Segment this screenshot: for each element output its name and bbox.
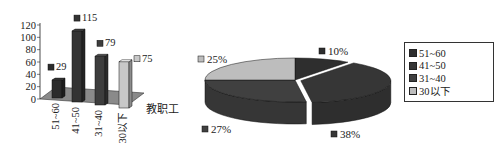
legend-label: 31~40	[419, 73, 446, 84]
x-tick-label: 51~60	[50, 103, 61, 130]
data-label-swatch	[97, 40, 103, 46]
legend-swatch	[409, 49, 417, 57]
bar-front	[72, 31, 82, 102]
bar-side	[82, 29, 85, 102]
y-tick-label: 0	[31, 94, 36, 105]
legend-item: 51~60	[409, 47, 489, 60]
x-tick-label: 41~50	[70, 107, 81, 134]
legend-item: 30以下	[409, 85, 489, 98]
data-label-swatch	[319, 48, 325, 54]
x-axis-title: 教职工	[146, 103, 179, 115]
bar	[119, 60, 132, 108]
bar-data-label: 29	[56, 61, 67, 72]
pie-legend: 51~6041~5031~4030以下	[404, 42, 494, 102]
y-tick-label: 80	[26, 44, 37, 55]
bar-side	[129, 60, 132, 108]
bar	[72, 29, 85, 102]
bar-side	[105, 54, 108, 105]
x-tick-label: 30以下	[117, 113, 128, 144]
data-label-swatch	[198, 56, 204, 62]
bar-data-label: 79	[105, 37, 116, 48]
legend-swatch	[409, 62, 417, 70]
bar-front	[52, 80, 62, 98]
data-label-swatch	[48, 64, 54, 70]
data-label-swatch	[202, 126, 208, 132]
bar	[95, 54, 108, 105]
legend-label: 30以下	[419, 83, 450, 98]
bar-data-label: 75	[142, 53, 153, 64]
legend-item: 41~50	[409, 60, 489, 73]
bar-chart: 020406080100120 2951~6011541~507931~4075…	[0, 0, 180, 157]
bar-side	[62, 78, 65, 98]
legend-swatch	[409, 87, 417, 95]
x-tick-label: 31~40	[93, 110, 104, 137]
bar-data-label: 115	[82, 12, 97, 23]
bar	[52, 78, 65, 98]
pie-data-label: 27%	[211, 123, 231, 135]
pie-data-label: 25%	[207, 53, 227, 65]
legend-label: 51~60	[419, 48, 446, 59]
legend-label: 41~50	[419, 60, 446, 71]
pie-data-label: 10%	[328, 45, 348, 57]
legend-swatch	[409, 74, 417, 82]
data-label-swatch	[134, 56, 140, 62]
data-label-swatch	[74, 15, 80, 21]
y-tick-label: 40	[26, 69, 37, 80]
y-tick-label: 100	[20, 32, 36, 43]
bar-front	[95, 56, 105, 105]
y-tick-label: 60	[26, 57, 37, 68]
pie-chart: 10%38%27%25%	[180, 0, 400, 157]
pie-data-label: 38%	[340, 128, 360, 140]
y-tick-label: 120	[20, 20, 36, 31]
bar-front	[119, 62, 129, 108]
data-label-swatch	[331, 131, 337, 137]
y-tick-label: 20	[26, 81, 37, 92]
